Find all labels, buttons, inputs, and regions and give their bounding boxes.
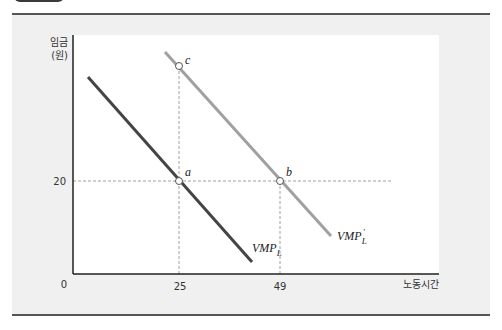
- x-tick-49: 49: [274, 281, 287, 292]
- point-b: [277, 178, 284, 185]
- y-tick-20: 20: [53, 176, 66, 187]
- point-b-label: b: [286, 165, 292, 179]
- point-c: [176, 63, 183, 70]
- point-a: [176, 178, 183, 185]
- point-c-label: c: [185, 53, 191, 67]
- y-axis-label-line2: (원): [51, 50, 68, 61]
- x-tick-25: 25: [174, 281, 187, 292]
- y-axis-label-line1: 임금: [50, 36, 68, 48]
- chart: a b c VMPL VMPL′ 임금 (원) 20 0 25 49 노동시간: [0, 0, 502, 330]
- x-tick-0: 0: [61, 279, 67, 290]
- x-axis-label: 노동시간: [403, 279, 439, 290]
- point-a-label: a: [185, 165, 191, 179]
